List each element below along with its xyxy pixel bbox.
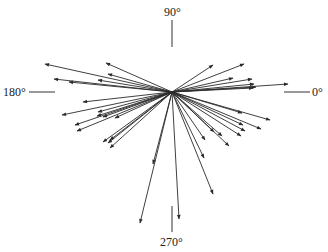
label-90: 90°	[164, 5, 181, 19]
label-180: 180°	[3, 85, 26, 99]
arrows	[45, 63, 288, 223]
axis-ticks	[29, 20, 310, 232]
vector-arrow	[77, 92, 172, 131]
label-0: 0°	[312, 85, 323, 99]
vector-arrow	[45, 64, 172, 92]
vector-arrow	[172, 92, 179, 219]
vector-arrow	[172, 92, 245, 131]
vector-arrow	[172, 92, 243, 125]
vector-diagram: 90° 270° 180° 0°	[0, 0, 328, 252]
vector-arrow	[106, 63, 172, 92]
vector-arrow	[172, 92, 261, 129]
vector-arrow	[172, 92, 213, 194]
label-270: 270°	[160, 235, 183, 249]
